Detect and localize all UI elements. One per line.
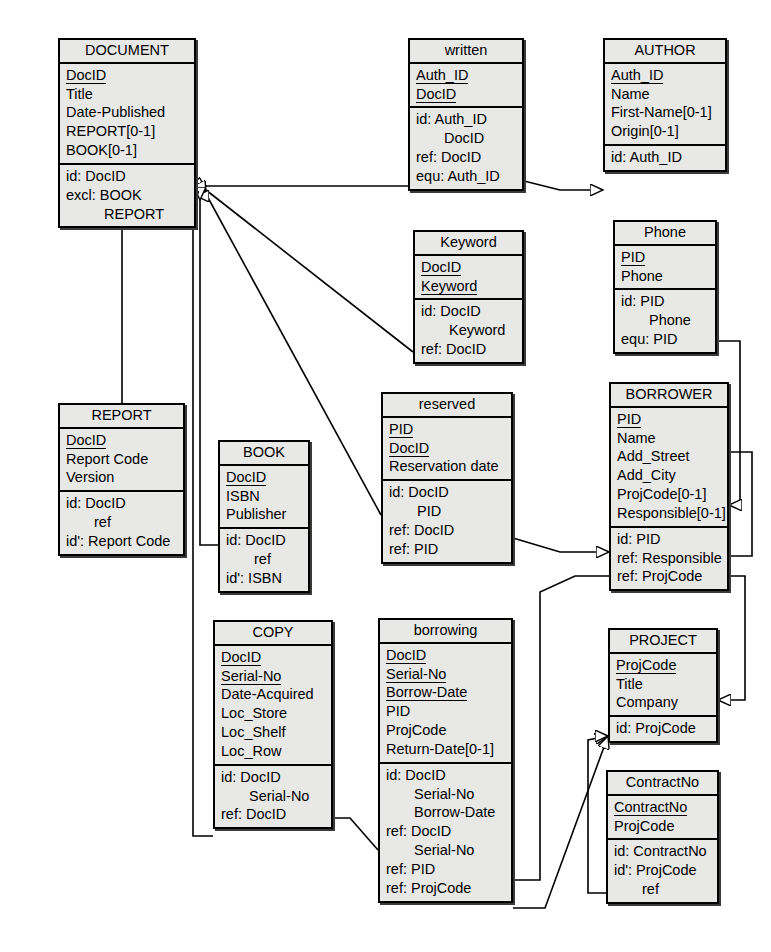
attribute: Reservation date [383,457,511,476]
attribute: ProjCode[0-1] [611,485,727,504]
constraint-line: id': Report Code [60,532,183,551]
attribute-label: Add_Street [617,448,690,464]
entity-attributes-document: DocIDTitleDate-PublishedREPORT[0-1]BOOK[… [60,64,194,165]
entity-title-keyword: Keyword [415,232,522,256]
entity-keyword[interactable]: KeywordDocIDKeywordid: DocIDKeywordref: … [413,230,524,364]
constraint-line: ref: DocID [410,148,522,167]
constraint-line: id: ContractNo [608,842,717,861]
attribute-label: Add_City [617,467,676,483]
entity-written[interactable]: writtenAuth_IDDocIDid: Auth_IDDocIDref: … [408,38,524,191]
entity-contractno[interactable]: ContractNoContractNoProjCodeid: Contract… [606,770,719,904]
edge-borrowing-project [513,736,608,908]
attribute-label: Keyword [421,278,477,295]
entity-reserved[interactable]: reservedPIDDocIDReservation dateid: DocI… [381,392,513,564]
entity-constraints-borrower: id: PIDref: Responsibleref: ProjCode [611,528,727,590]
attribute: ProjCode [608,817,717,836]
attribute-label: Company [616,694,678,710]
attribute: Origin[0-1] [605,122,725,141]
constraint-line: PID [383,502,511,521]
constraint-line: id: Auth_ID [410,110,522,129]
attribute: First-Name[0-1] [605,103,725,122]
entity-constraints-written: id: Auth_IDDocIDref: DocIDequ: Auth_ID [410,108,522,188]
attribute-key: ProjCode [610,656,716,675]
attribute-label: Version [66,469,114,485]
entity-attributes-written: Auth_IDDocID [410,64,522,109]
attribute-key: Serial-No [215,667,331,686]
attribute-label: Origin[0-1] [611,123,679,139]
entity-document[interactable]: DOCUMENTDocIDTitleDate-PublishedREPORT[0… [58,38,196,228]
attribute: ISBN [220,487,308,506]
constraint-line: id: PID [615,292,715,311]
entity-author[interactable]: AUTHORAuth_IDNameFirst-Name[0-1]Origin[0… [603,38,727,172]
constraint-line: id: DocID [380,766,511,785]
attribute-label: Loc_Store [221,705,287,721]
attribute-label: Borrow-Date [386,684,467,701]
constraint-line: Serial-No [215,787,331,806]
edge-contractno-project [588,736,608,893]
constraint-line: ref: ProjCode [380,879,511,898]
entity-borrowing[interactable]: borrowingDocIDSerial-NoBorrow-DatePIDPro… [378,618,513,903]
attribute-label: DocID [66,432,106,449]
attribute: Date-Published [60,103,194,122]
attribute-label: Responsible[0-1] [617,505,726,521]
entity-project[interactable]: PROJECTProjCodeTitleCompanyid: ProjCode [608,628,718,743]
constraint-line: ref: PID [380,860,511,879]
attribute-label: Phone [621,268,663,284]
attribute: Add_City [611,466,727,485]
entity-title-written: written [410,40,522,64]
attribute-label: Serial-No [221,668,281,685]
entity-attributes-reserved: PIDDocIDReservation date [383,418,511,482]
attribute-label: ProjCode[0-1] [617,486,706,502]
constraint-line: ref: DocID [215,805,331,824]
attribute-label: DocID [221,649,261,666]
attribute-label: REPORT[0-1] [66,123,155,139]
attribute: Loc_Shelf [215,723,331,742]
edge-written-author [524,181,603,190]
constraint-line: ref [220,550,308,569]
attribute-label: PID [617,411,641,428]
attribute: Name [605,85,725,104]
attribute: Add_Street [611,447,727,466]
entity-title-project: PROJECT [610,630,716,654]
constraint-line: ref [608,880,717,899]
attribute-key: DocID [215,648,331,667]
entity-constraints-phone: id: PIDPhoneequ: PID [615,290,715,352]
entity-report[interactable]: REPORTDocIDReport CodeVersionid: DocIDre… [58,403,185,556]
entity-copy[interactable]: COPYDocIDSerial-NoDate-AcquiredLoc_Store… [213,620,333,829]
attribute: REPORT[0-1] [60,122,194,141]
entity-constraints-document: id: DocIDexcl: BOOKREPORT [60,165,194,227]
attribute-label: Report Code [66,451,148,467]
attribute-label: Name [611,86,650,102]
constraint-line: Phone [615,311,715,330]
attribute-label: DocID [226,469,266,486]
attribute-label: Title [66,86,93,102]
attribute-label: BOOK[0-1] [66,142,137,158]
attribute-key: DocID [220,468,308,487]
edge-copy-document [193,204,213,836]
attribute-label: PID [386,703,410,719]
entity-book[interactable]: BOOKDocIDISBNPublisherid: DocIDrefid': I… [218,440,310,593]
attribute-key: DocID [383,439,511,458]
constraint-line: REPORT [60,205,194,224]
attribute: Phone [615,267,715,286]
attribute: Return-Date[0-1] [380,740,511,759]
constraint-line: id': ISBN [220,569,308,588]
entity-title-borrowing: borrowing [380,620,511,644]
attribute: Name [611,429,727,448]
attribute-label: Serial-No [386,666,446,683]
constraint-line: ref: DocID [383,521,511,540]
entity-constraints-contractno: id: ContractNoid': ProjCoderef [608,840,717,902]
edge-borrowing-copy [333,818,378,850]
entity-attributes-project: ProjCodeTitleCompany [610,654,716,718]
entity-phone[interactable]: PhonePIDPhoneid: PIDPhoneequ: PID [613,220,717,354]
constraint-line: equ: PID [615,330,715,349]
attribute-label: DocID [389,440,429,457]
attribute-label: ProjCode [386,722,446,738]
entity-title-contractno: ContractNo [608,772,717,796]
attribute-key: Borrow-Date [380,683,511,702]
attribute-label: Return-Date[0-1] [386,741,494,757]
attribute: Report Code [60,450,183,469]
entity-title-book: BOOK [220,442,308,466]
entity-borrower[interactable]: BORROWERPIDNameAdd_StreetAdd_CityProjCod… [609,382,729,591]
constraint-line: Serial-No [380,841,511,860]
